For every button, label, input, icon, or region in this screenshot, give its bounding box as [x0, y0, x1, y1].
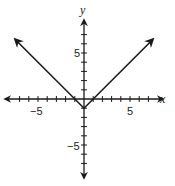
- graph-figure: y x −5 5 5 −5: [0, 0, 175, 186]
- x-axis-label: x: [159, 92, 166, 106]
- y-axis-label: y: [79, 3, 86, 17]
- x-tick-label-neg5: −5: [30, 105, 43, 117]
- y-tick-label-pos5: 5: [74, 47, 80, 59]
- x-tick-label-pos5: 5: [127, 105, 133, 117]
- coordinate-plane: y x −5 5 5 −5: [0, 0, 175, 186]
- y-tick-label-neg5: −5: [67, 140, 80, 152]
